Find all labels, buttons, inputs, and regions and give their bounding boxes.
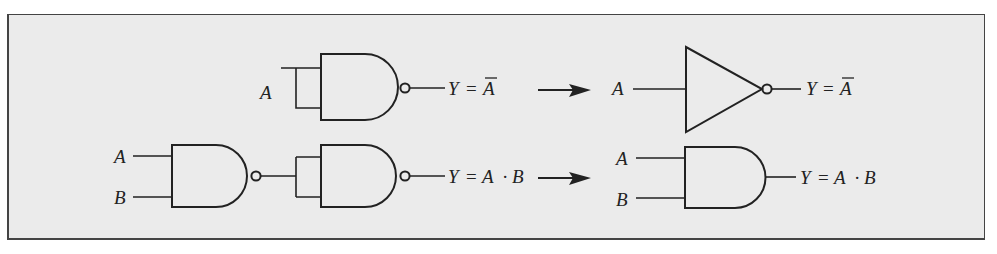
nand-gate-2 — [172, 145, 247, 207]
arrow-icon — [538, 84, 591, 97]
svg-text:A: A — [838, 78, 852, 99]
input-wires — [636, 158, 685, 198]
input-label-a: A — [258, 82, 272, 103]
svg-text:Y: Y — [806, 78, 819, 99]
svg-text:·: · — [502, 166, 508, 187]
svg-text:·: · — [854, 167, 860, 188]
input-label-b: B — [114, 187, 126, 208]
tied-input-wire — [281, 68, 321, 108]
input-label-b: B — [616, 189, 628, 210]
svg-text:A: A — [480, 166, 494, 187]
row-and-result: A B Y = A · B — [614, 147, 876, 210]
inversion-bubble-icon — [400, 171, 409, 180]
svg-text:A: A — [481, 78, 495, 99]
input-label-a: A — [112, 146, 126, 167]
arrow-icon — [538, 172, 591, 185]
not-gate — [686, 47, 762, 132]
svg-text:B: B — [512, 166, 524, 187]
output-expression: Y = A · B — [800, 167, 876, 188]
nand-gate-1 — [321, 54, 398, 120]
svg-text:=: = — [466, 166, 477, 187]
output-expression: Y = A — [448, 78, 497, 99]
inversion-bubble-icon — [251, 171, 260, 180]
logic-diagram: A Y = A A Y = A A B — [0, 0, 997, 254]
svg-text:A: A — [832, 167, 846, 188]
svg-text:=: = — [818, 167, 829, 188]
output-expression: Y = A — [806, 78, 854, 99]
svg-text:Y: Y — [448, 78, 461, 99]
svg-text:Y: Y — [448, 166, 461, 187]
inversion-bubble-icon — [400, 83, 409, 92]
row-not-result: A Y = A — [610, 47, 854, 132]
input-label-a: A — [614, 148, 628, 169]
and-gate — [685, 147, 766, 208]
input-wires — [133, 156, 172, 197]
svg-text:=: = — [823, 78, 834, 99]
output-expression: Y = A · B — [448, 166, 524, 187]
row-not-nand: A Y = A — [258, 54, 497, 120]
svg-text:=: = — [466, 78, 477, 99]
svg-text:B: B — [864, 167, 876, 188]
nand-gate-3 — [321, 145, 396, 207]
input-label-a: A — [610, 78, 624, 99]
svg-text:Y: Y — [800, 167, 813, 188]
tied-input-wire — [261, 157, 321, 197]
row-and-nand: A B Y = A · B — [112, 145, 524, 208]
